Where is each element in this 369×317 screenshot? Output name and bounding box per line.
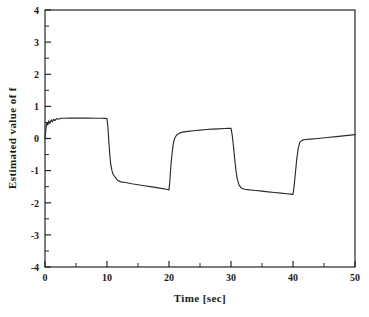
y-tick-label-neg1: -1 [31,165,39,176]
y-tick-label-neg2: -2 [31,198,39,209]
x-tick-label-30: 30 [226,272,236,283]
y-axis-tick-labels: 4 3 2 1 0 -1 -2 -3 -4 [31,5,39,273]
x-tick-label-10: 10 [102,272,112,283]
y-tick-label-0: 0 [34,133,39,144]
y-tick-label-3: 3 [34,37,39,48]
chart-figure: 4 3 2 1 0 -1 -2 -3 -4 0 10 20 [0,0,369,317]
x-axis-tick-labels: 0 10 20 30 40 50 [43,272,361,283]
y-tick-label-neg4: -4 [31,262,39,273]
y-tick-label-neg3: -3 [31,230,39,241]
y-tick-label-2: 2 [34,69,39,80]
x-tick-label-40: 40 [288,272,298,283]
data-series-line [45,118,355,194]
chart-svg: 4 3 2 1 0 -1 -2 -3 -4 0 10 20 [0,0,369,317]
x-tick-label-50: 50 [350,272,360,283]
y-axis-ticks [45,10,51,267]
x-tick-label-20: 20 [164,272,174,283]
x-tick-label-0: 0 [43,272,48,283]
y-axis-title: Estimated value of f [6,87,18,189]
x-axis-title: Time [sec] [174,292,226,304]
y-tick-label-4: 4 [34,5,39,16]
y-tick-label-1: 1 [34,101,39,112]
x-axis-ticks [45,261,355,267]
plot-frame [45,10,355,267]
